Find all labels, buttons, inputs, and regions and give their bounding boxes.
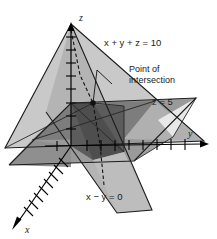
axis-y-arrowhead	[200, 141, 209, 148]
axis-z-label: z	[78, 12, 83, 23]
diagram-canvas: z y x x + y + z = 10 Point of intersecti…	[0, 0, 217, 239]
plane-diff-equation-label: x − y = 0	[86, 191, 122, 202]
plane-sum-equation-label: x + y + z = 10	[104, 37, 161, 48]
plane-intersection-figure: z y x x + y + z = 10 Point of intersecti…	[0, 0, 217, 239]
axis-y-label: y	[187, 128, 193, 139]
intersection-label-line2: intersection	[129, 75, 175, 85]
plane-z-equation-label: z = 5	[152, 96, 173, 107]
axis-x-label: x	[24, 224, 30, 235]
intersection-label-line1: Point of	[129, 64, 160, 74]
